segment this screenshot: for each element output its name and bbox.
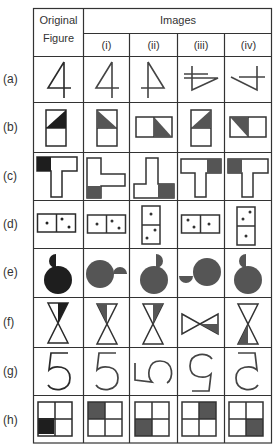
row-label-c: (c) [3, 169, 33, 183]
figure-b-i [95, 108, 119, 148]
header-col-ii: (ii) [130, 39, 177, 52]
figure-h-iii [180, 400, 220, 440]
figure-c-original [35, 155, 81, 199]
figure-e-ii [134, 250, 174, 296]
row-label-g: (g) [3, 364, 33, 378]
figure-e-iii [177, 254, 225, 294]
header-col-iii: (iii) [178, 39, 224, 52]
figure-h-iv [227, 400, 267, 440]
figure-d-original [36, 212, 78, 236]
figure-b-ii [134, 115, 174, 139]
figure-f-iii [180, 310, 222, 338]
figure-d-iv [235, 205, 259, 247]
figure-g-original [42, 350, 76, 394]
figure-h-ii [133, 400, 173, 440]
figure-h-i [86, 400, 126, 440]
row-label-f: (f) [3, 315, 33, 329]
figure-c-iv [226, 157, 270, 199]
figure-e-i [84, 254, 130, 294]
header-col-iv: (iv) [225, 39, 272, 52]
figure-a-i [92, 60, 122, 100]
figure-c-ii [132, 156, 176, 200]
row-label-d: (d) [3, 217, 33, 231]
figure-e-original [38, 250, 78, 296]
figure-g-ii [131, 351, 177, 393]
figure-f-original [44, 301, 72, 345]
figure-b-original [44, 108, 68, 148]
header-images: Images [84, 14, 272, 27]
figure-g-iv [230, 350, 264, 394]
figure-b-iii [189, 108, 213, 148]
header-col-i: (i) [84, 39, 129, 52]
figure-a-ii [138, 60, 168, 100]
row-label-e: (e) [3, 265, 33, 279]
figure-f-i [93, 302, 121, 346]
figure-a-original [44, 60, 74, 100]
row-label-h: (h) [3, 413, 33, 427]
figure-g-iii [184, 350, 218, 394]
row-label-b: (b) [3, 120, 33, 134]
figure-c-i [85, 156, 127, 200]
figure-g-i [90, 350, 124, 394]
figure-d-iii [180, 213, 222, 237]
figure-table: Original Figure Images (i) (ii) (iii) (i… [0, 0, 273, 445]
figure-b-iv [228, 115, 268, 139]
figure-f-ii [139, 302, 167, 346]
figure-h-original [36, 400, 76, 440]
figure-a-iv [229, 64, 267, 96]
header-original-line2: Figure [34, 32, 83, 45]
figure-f-iv [234, 302, 262, 346]
figure-a-iii [182, 64, 220, 96]
figure-d-i [86, 213, 128, 237]
figure-c-iii [179, 157, 223, 199]
header-original-line1: Original [34, 14, 83, 27]
row-label-a: (a) [3, 72, 33, 86]
figure-e-iv [228, 250, 268, 296]
figure-d-ii [140, 204, 164, 246]
